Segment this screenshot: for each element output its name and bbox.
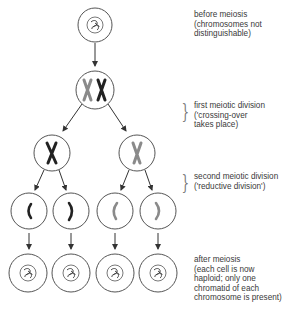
- light-chromosome: [84, 80, 91, 100]
- brace-second-division: }: [182, 172, 190, 192]
- brace-first-division: }: [182, 101, 190, 121]
- cell-before-meiosis: [78, 8, 112, 42]
- arrow: [108, 104, 126, 131]
- chromatin-icon: [87, 17, 103, 33]
- cell-chromatid-1: [11, 193, 47, 229]
- chromatin-icon: [20, 265, 36, 281]
- cell-haploid-2: [52, 254, 90, 292]
- arrow: [121, 170, 129, 190]
- arrow: [35, 170, 44, 190]
- cell-dark-x: [34, 135, 70, 171]
- chromatin-icon: [150, 265, 166, 281]
- label-before-meiosis: before meiosis (chromosomes not distingu…: [194, 10, 262, 39]
- cell-chromatid-4: [140, 193, 176, 229]
- arrow: [63, 104, 82, 131]
- cell-chromatid-2: [53, 193, 89, 229]
- label-second-division: second meiotic division ('reductive divi…: [194, 172, 278, 191]
- cell-haploid-1: [9, 254, 47, 292]
- cell-chromatid-3: [97, 193, 133, 229]
- arrow: [145, 170, 152, 190]
- chromatin-icon: [63, 265, 79, 281]
- label-after-meiosis: after meiosis (each cell is now haploid;…: [194, 255, 282, 303]
- cell-haploid-3: [96, 254, 134, 292]
- arrow: [59, 170, 66, 190]
- label-first-division: first meiotic division ('crossing-over t…: [194, 101, 265, 130]
- cell-paired-chromosomes: [76, 71, 114, 109]
- cell-haploid-4: [139, 254, 177, 292]
- chromatin-icon: [107, 265, 123, 281]
- dark-chromosome: [98, 80, 105, 100]
- cell-light-x: [119, 135, 155, 171]
